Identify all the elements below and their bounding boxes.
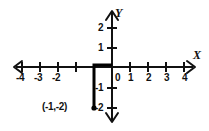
y-axis-label: Y — [115, 7, 122, 19]
y-tick-label-neg1: -1 — [95, 83, 103, 93]
point-coordinate-label: (-1,-2) — [42, 102, 67, 112]
origin-label: 0 — [115, 73, 120, 83]
x-tick-label-4: 4 — [182, 73, 187, 83]
y-tick-label-1: 1 — [98, 43, 103, 53]
y-tick-label-neg2: -2 — [95, 103, 103, 113]
y-tick-label-2: 2 — [98, 23, 103, 33]
x-tick-label-neg4: -4 — [16, 73, 24, 83]
x-tick-label-neg3: -3 — [34, 73, 42, 83]
coordinate-plane-svg — [0, 0, 209, 131]
x-tick-label-3: 3 — [164, 73, 169, 83]
x-tick-label-2: 2 — [146, 73, 151, 83]
x-tick-label-1: 1 — [128, 73, 133, 83]
coordinate-plane-figure: -4 -3 -2 0 1 2 3 4 2 1 -1 -2 Y X (-1,-2) — [0, 0, 209, 131]
x-tick-label-neg2: -2 — [52, 73, 60, 83]
x-axis-label: X — [193, 49, 201, 61]
